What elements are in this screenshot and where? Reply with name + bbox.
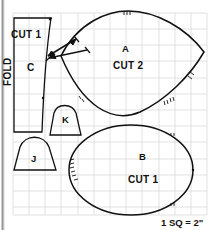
piece-j-name-label: J	[31, 154, 37, 164]
piece-c-fold-label: FOLD	[3, 58, 13, 86]
piece-b-side-dot	[192, 169, 194, 171]
piece-b-cut-label: CUT 1	[128, 175, 158, 185]
piece-b-name-label: B	[139, 152, 146, 162]
piece-c-corner-dot	[49, 18, 51, 20]
pattern-sheet: CUT 1 C FOLD A CUT 2 B CUT 1 J K 1 SQ = …	[0, 0, 219, 230]
piece-a-cut-label: CUT 2	[113, 61, 143, 71]
piece-c-name-label: C	[27, 63, 35, 73]
piece-b-notch-marks-left	[70, 159, 78, 180]
scale-caption: 1 SQ = 2"	[161, 217, 203, 228]
piece-a-notch-marks-lower-left	[79, 96, 84, 102]
piece-b-outline	[69, 125, 194, 215]
piece-b-notch-marks-corner	[171, 133, 174, 206]
piece-a-notch-marks-lower-right	[164, 97, 174, 105]
piece-c-cut-label: CUT 1	[11, 30, 41, 40]
piece-a-name-label: A	[122, 44, 129, 54]
piece-k-name-label: K	[62, 115, 69, 125]
dimension-arrows	[46, 36, 90, 61]
piece-c-notch-dot	[42, 97, 44, 99]
